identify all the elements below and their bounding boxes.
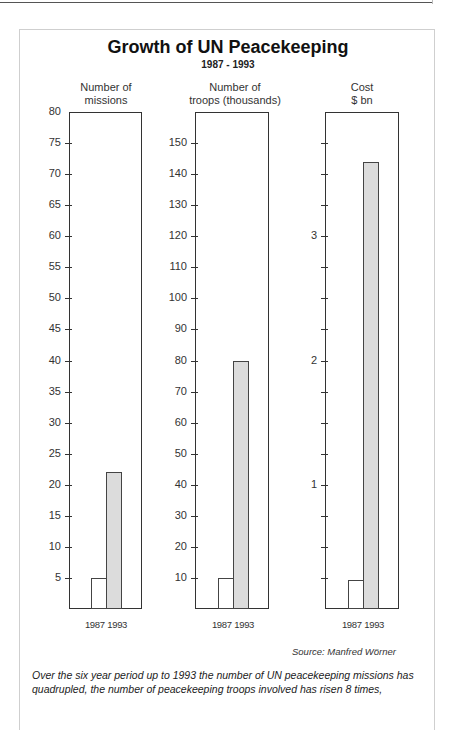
troops-y-tick-label: 80 xyxy=(157,354,187,366)
page-corner-mark xyxy=(426,0,433,4)
missions-label-line1: Number of xyxy=(60,81,152,94)
troops-y-tick xyxy=(191,329,198,330)
missions-y-tick xyxy=(65,267,72,268)
troops-bar-1987 xyxy=(218,578,234,609)
troops-y-tick xyxy=(191,485,198,486)
missions-y-tick xyxy=(65,361,72,362)
source-note: Source: Manfred Wörner xyxy=(200,646,396,657)
troops-y-tick-label: 70 xyxy=(157,385,187,397)
missions-y-tick xyxy=(65,143,72,144)
troops-y-tick xyxy=(191,143,198,144)
troops-y-tick-label: 60 xyxy=(157,416,187,428)
missions-y-tick-label: 25 xyxy=(31,447,61,459)
troops-y-tick xyxy=(191,236,198,237)
missions-x-label: 1987 1993 xyxy=(66,619,146,630)
troops-panel-label: Number of troops (thousands) xyxy=(180,81,290,107)
cost-y-tick xyxy=(321,423,328,424)
cost-y-tick xyxy=(321,392,328,393)
missions-label-line2: missions xyxy=(60,94,152,107)
troops-y-tick xyxy=(191,392,198,393)
missions-y-tick-label: 20 xyxy=(31,478,61,490)
missions-y-tick xyxy=(65,578,72,579)
missions-y-tick-label: 70 xyxy=(31,167,61,179)
troops-y-tick-label: 10 xyxy=(157,571,187,583)
troops-y-tick-label: 130 xyxy=(157,198,187,210)
troops-y-tick-label: 150 xyxy=(157,136,187,148)
page-top-rule xyxy=(0,2,432,3)
missions-y-tick-label: 15 xyxy=(31,509,61,521)
cost-label-line1: Cost xyxy=(325,81,399,94)
troops-label-line1: Number of xyxy=(180,81,290,94)
troops-y-tick xyxy=(191,298,198,299)
cost-y-tick-label: 2 xyxy=(287,354,317,366)
missions-y-tick-label: 80 xyxy=(31,105,61,117)
missions-y-tick xyxy=(65,236,72,237)
missions-y-tick-label: 10 xyxy=(31,540,61,552)
cost-y-tick xyxy=(321,578,328,579)
missions-y-tick xyxy=(65,516,72,517)
troops-label-line2: troops (thousands) xyxy=(180,94,290,107)
cost-bar-1993 xyxy=(363,162,379,609)
troops-y-tick xyxy=(191,454,198,455)
cost-y-tick xyxy=(321,205,328,206)
troops-y-tick-label: 30 xyxy=(157,509,187,521)
troops-y-tick-label: 40 xyxy=(157,478,187,490)
troops-y-tick-label: 100 xyxy=(157,291,187,303)
missions-y-tick-label: 45 xyxy=(31,322,61,334)
troops-y-tick-label: 140 xyxy=(157,167,187,179)
missions-y-tick xyxy=(65,392,72,393)
cost-y-tick xyxy=(321,174,328,175)
cost-y-tick xyxy=(321,267,328,268)
cost-label-line2: $ bn xyxy=(325,94,399,107)
missions-y-tick-label: 30 xyxy=(31,416,61,428)
cost-y-tick xyxy=(321,547,328,548)
troops-x-label: 1987 1993 xyxy=(193,619,273,630)
missions-y-tick xyxy=(65,174,72,175)
cost-y-tick xyxy=(321,298,328,299)
missions-y-tick xyxy=(65,547,72,548)
troops-y-tick-label: 20 xyxy=(157,540,187,552)
cost-panel-label: Cost $ bn xyxy=(325,81,399,107)
cost-y-tick xyxy=(321,361,328,362)
missions-y-tick xyxy=(65,329,72,330)
troops-y-tick xyxy=(191,174,198,175)
cost-y-tick xyxy=(321,143,328,144)
troops-plot-frame xyxy=(195,112,269,609)
missions-y-tick-label: 75 xyxy=(31,136,61,148)
missions-y-tick-label: 35 xyxy=(31,385,61,397)
troops-y-tick xyxy=(191,423,198,424)
cost-y-tick-label: 1 xyxy=(287,478,317,490)
missions-y-tick xyxy=(65,454,72,455)
chart-title: Growth of UN Peacekeeping xyxy=(0,37,456,58)
troops-y-tick xyxy=(191,205,198,206)
missions-y-tick-label: 65 xyxy=(31,198,61,210)
caption-text: Over the six year period up to 1993 the … xyxy=(32,668,432,696)
troops-y-tick xyxy=(191,516,198,517)
missions-y-tick xyxy=(65,298,72,299)
missions-y-tick xyxy=(65,423,72,424)
troops-y-tick xyxy=(191,361,198,362)
cost-x-label: 1987 1993 xyxy=(323,619,403,630)
cost-y-tick xyxy=(321,485,328,486)
troops-y-tick-label: 50 xyxy=(157,447,187,459)
missions-y-tick-label: 60 xyxy=(31,229,61,241)
cost-y-tick-label: 3 xyxy=(287,229,317,241)
missions-y-tick-label: 55 xyxy=(31,260,61,272)
troops-bar-1993 xyxy=(233,361,249,610)
cost-bar-1987 xyxy=(348,580,364,609)
missions-bar-1993 xyxy=(106,472,122,609)
missions-y-tick-label: 50 xyxy=(31,291,61,303)
missions-y-tick xyxy=(65,485,72,486)
missions-panel-label: Number of missions xyxy=(60,81,152,107)
troops-y-tick xyxy=(191,547,198,548)
troops-y-tick-label: 90 xyxy=(157,322,187,334)
cost-y-tick xyxy=(321,454,328,455)
troops-y-tick xyxy=(191,267,198,268)
troops-y-tick-label: 120 xyxy=(157,229,187,241)
missions-y-tick-label: 40 xyxy=(31,354,61,366)
missions-y-tick-label: 5 xyxy=(31,571,61,583)
troops-y-tick-label: 110 xyxy=(157,260,187,272)
missions-bar-1987 xyxy=(91,578,107,609)
troops-y-tick xyxy=(191,578,198,579)
cost-plot-frame xyxy=(325,112,399,609)
